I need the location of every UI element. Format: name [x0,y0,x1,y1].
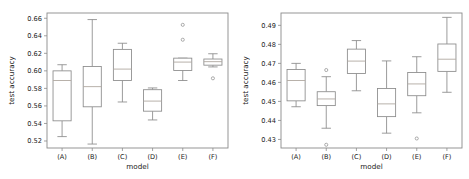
x-tick-label: (A) [57,153,67,161]
boxplot-left-svg: 0.520.540.560.580.600.620.640.66test acc… [0,0,234,179]
box-F [204,54,222,80]
outlier-point [325,143,328,146]
box-D [378,61,396,133]
outlier-point [325,68,328,71]
plot-frame [281,13,462,148]
outlier-point [415,137,418,140]
box-C [347,41,365,91]
x-tick-label: (D) [381,153,391,161]
box-E [408,57,426,140]
box-A [53,65,71,137]
y-axis-label: test accuracy [7,55,16,104]
box-body [144,90,162,111]
y-axis-label: test accuracy [241,55,250,104]
boxplot-figure: 0.520.540.560.580.600.620.640.66test acc… [0,0,469,179]
y-tick-label: 0.56 [27,102,42,110]
x-tick-label: (C) [352,153,362,161]
y-tick-label: 0.46 [261,79,276,87]
box-B [317,68,335,146]
box-A [287,63,305,106]
y-tick-label: 0.48 [261,41,276,49]
outlier-point [181,38,184,41]
box-body [113,49,131,80]
boxplot-right-svg: 0.430.440.450.460.470.480.49test accurac… [234,0,468,179]
x-tick-label: (F) [442,153,451,161]
x-tick-label: (B) [321,153,331,161]
plot-frame [47,13,228,148]
box-C [113,43,131,102]
y-tick-label: 0.45 [261,98,276,106]
y-tick-label: 0.60 [27,67,42,75]
x-tick-label: (A) [291,153,301,161]
chart-panel-right: 0.430.440.450.460.470.480.49test accurac… [234,0,468,179]
y-tick-label: 0.44 [261,117,276,125]
box-D [144,88,162,120]
y-tick-label: 0.43 [261,136,276,144]
chart-panel-left: 0.520.540.560.580.600.620.640.66test acc… [0,0,234,179]
box-E [174,23,192,80]
y-tick-label: 0.54 [27,120,42,128]
y-tick-label: 0.58 [27,85,42,93]
box-body [174,58,192,70]
y-tick-label: 0.66 [27,15,42,23]
outlier-point [211,77,214,80]
box-body [438,44,456,71]
x-tick-label: (D) [147,153,157,161]
y-tick-label: 0.52 [27,137,42,145]
x-tick-label: (B) [87,153,97,161]
box-body [378,88,396,116]
y-tick-label: 0.47 [261,60,276,68]
box-body [53,71,71,121]
outlier-point [181,23,184,26]
box-B [83,20,101,144]
y-tick-label: 0.64 [27,32,42,40]
x-tick-label: (F) [208,153,217,161]
box-body [287,69,305,100]
x-tick-label: (E) [412,153,421,161]
x-tick-label: (C) [118,153,128,161]
x-axis-label: model [126,162,148,171]
y-tick-label: 0.62 [27,50,42,58]
x-axis-label: model [360,162,382,171]
box-F [438,17,456,92]
y-tick-label: 0.49 [261,22,276,30]
x-tick-label: (E) [178,153,187,161]
